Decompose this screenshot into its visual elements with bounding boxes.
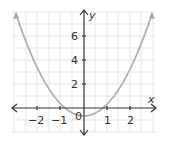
y-tick-4: 4 [71,54,78,67]
y-axis-label: y [88,9,96,22]
parabola-chart: y x 6 4 2 −2 −1 0 1 2 [0,0,169,142]
x-tick-1: 1 [104,114,111,127]
x-tick-neg2: −2 [28,114,44,127]
y-tick-2: 2 [71,78,78,91]
x-tick-2: 2 [127,114,134,127]
y-tick-6: 6 [71,30,78,43]
curve-arrow-right [149,12,155,19]
origin-label: 0 [75,110,82,123]
x-axis-label: x [147,93,155,106]
x-tick-neg1: −1 [51,114,67,127]
